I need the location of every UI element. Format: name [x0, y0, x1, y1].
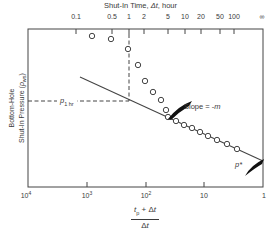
- top-tick-label-10: 10: [181, 13, 189, 20]
- top-tick-label-100: 100: [228, 13, 240, 20]
- slope-label-text: Slope = -: [184, 102, 214, 111]
- top-tick-label-20: 20: [197, 13, 205, 20]
- top-tick-label-50: 50: [216, 13, 224, 20]
- top-tick-label-5: 5: [166, 13, 170, 20]
- y-axis-title-line2: Shut-In Pressure (pws): [17, 43, 29, 173]
- slope-m-symbol: m: [214, 102, 220, 111]
- bottom-tick-label-10: 10: [200, 192, 208, 199]
- top-tick-label-∞: ∞: [260, 13, 265, 20]
- fraction-denominator: Δt: [105, 220, 185, 231]
- pstar-annotation: p*: [235, 160, 242, 169]
- fraction-plus-delta: + Δ: [139, 205, 153, 214]
- bottom-tick-label-102: 102: [141, 192, 152, 199]
- top-axis-title-pre: Shut-In Time,: [104, 1, 151, 10]
- top-tick-label-2: 2: [142, 13, 146, 20]
- top-tick-label-0.5: 0.5: [107, 13, 117, 20]
- y-axis-title-line2-post: ): [18, 73, 25, 75]
- top-tick-label-0.1: 0.1: [71, 13, 81, 20]
- y-axis-title: Bottom-Hole Shut-In Pressure (pws): [7, 43, 29, 173]
- top-tick-label-1: 1: [127, 13, 131, 20]
- horner-plot-figure: Shut-In Time, Δt, hour Bottom-Hole Shut-…: [0, 0, 274, 234]
- p1hr-annotation: p1 hr: [57, 96, 77, 107]
- bottom-tick-label-104: 104: [21, 192, 32, 199]
- pstar-asterisk: *: [239, 160, 242, 169]
- y-axis-title-line2-pre: Shut-In Pressure (: [18, 86, 25, 143]
- top-axis-title-delta-t: Δt: [151, 1, 158, 10]
- slope-annotation: Slope = -m: [184, 102, 220, 111]
- top-axis-title-post: , hour: [158, 1, 177, 10]
- y-axis-title-pressure-symbol: p: [18, 82, 25, 86]
- fraction-den-t: t: [147, 221, 149, 230]
- fraction-t2: t: [154, 205, 156, 214]
- bottom-tick-label-103: 103: [82, 192, 93, 199]
- bottom-tick-label-1: 1: [262, 192, 266, 199]
- p1hr-subscript: 1 hr: [64, 101, 73, 107]
- y-axis-title-line1: Bottom-Hole: [7, 43, 17, 173]
- y-axis-title-ws-subscript: ws: [21, 75, 27, 82]
- top-axis-title: Shut-In Time, Δt, hour: [28, 1, 253, 10]
- plot-canvas: [0, 0, 274, 234]
- bottom-axis-title: tp + Δt Δt: [105, 205, 185, 231]
- fraction-numerator: tp + Δt: [131, 205, 159, 220]
